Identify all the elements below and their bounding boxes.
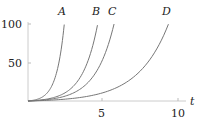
xtick-10-label: 10 [171, 107, 185, 120]
curve-label-d: D [161, 5, 171, 18]
curves [28, 24, 168, 101]
curve-label-b: B [91, 5, 100, 18]
curve-c [28, 24, 114, 101]
curve-label-c: C [108, 5, 117, 18]
curve-label-a: A [57, 5, 66, 18]
ytick-100-label: 100 [1, 18, 22, 31]
chart: 5 10 t 50 100 A B C D [0, 0, 198, 126]
curve-d [28, 24, 168, 101]
curve-a [28, 25, 64, 101]
xtick-5-label: 5 [98, 107, 105, 120]
ytick-50-label: 50 [8, 57, 22, 70]
x-axis-label: t [190, 95, 195, 108]
